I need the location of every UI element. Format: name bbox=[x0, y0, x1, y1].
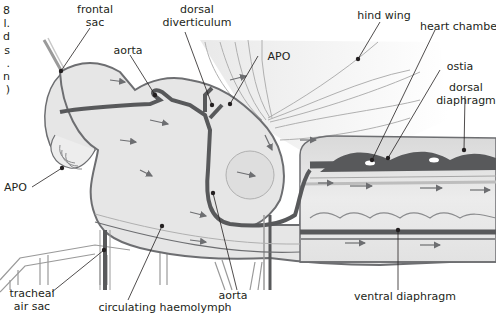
label-apo-top: APO bbox=[264, 50, 294, 63]
circulatory-system-diagram: 8 l. d s . n ) frontal sac dorsal divert… bbox=[0, 0, 496, 316]
caption-char: . bbox=[0, 57, 10, 70]
label-line: sac bbox=[70, 16, 120, 29]
label-circulating-haemolymph: circulating haemolymph bbox=[90, 301, 240, 314]
label-hind-wing: hind wing bbox=[352, 9, 416, 22]
label-line: diverticulum bbox=[157, 16, 237, 29]
caption-char: ) bbox=[0, 83, 10, 96]
label-heart-chamber: heart chamber bbox=[420, 20, 496, 33]
label-line: air sac bbox=[4, 300, 60, 313]
caption-char: l. bbox=[0, 17, 10, 30]
label-aorta-top: aorta bbox=[108, 44, 148, 57]
label-line: tracheal bbox=[4, 287, 60, 300]
diagram-artwork bbox=[0, 0, 496, 316]
label-dorsal-diaphragm: dorsal diaphragm bbox=[436, 81, 496, 107]
caption-char: d bbox=[0, 30, 10, 43]
label-dorsal-diverticulum: dorsal diverticulum bbox=[157, 3, 237, 29]
label-aorta-bottom: aorta bbox=[213, 289, 253, 302]
label-tracheal-air-sac: tracheal air sac bbox=[4, 287, 60, 313]
label-line: diaphragm bbox=[436, 94, 496, 107]
label-line: dorsal bbox=[157, 3, 237, 16]
caption-char: n bbox=[0, 70, 10, 83]
label-apo-left: APO bbox=[4, 181, 27, 194]
label-line: frontal bbox=[70, 3, 120, 16]
label-ventral-diaphragm: ventral diaphragm bbox=[350, 290, 460, 303]
caption-char: 8 bbox=[0, 4, 10, 17]
label-ostia: ostia bbox=[440, 60, 480, 73]
caption-char: s bbox=[0, 44, 10, 57]
label-line: dorsal bbox=[436, 81, 496, 94]
truncated-caption: 8 l. d s . n ) bbox=[0, 4, 10, 96]
label-frontal-sac: frontal sac bbox=[70, 3, 120, 29]
